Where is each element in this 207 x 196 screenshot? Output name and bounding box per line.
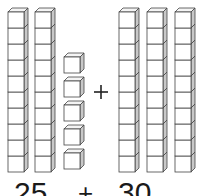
cube-front-face (119, 156, 135, 172)
cube-front-face (8, 76, 24, 92)
cube-front-face (147, 140, 163, 156)
cube-front-face (175, 140, 191, 156)
cube-front-face (35, 140, 51, 156)
cube-front-face (64, 153, 80, 169)
left-number-label: 25 (14, 178, 47, 196)
right-number-label: 30 (118, 178, 151, 196)
cube-front-face (35, 76, 51, 92)
cube-front-face (119, 124, 135, 140)
cube-front-face (35, 28, 51, 44)
tens-rod (35, 8, 55, 172)
cube-front-face (8, 92, 24, 108)
base-ten-blocks-diagram (0, 0, 207, 196)
cube-front-face (175, 60, 191, 76)
tens-rod (119, 8, 139, 172)
ones-cube (64, 53, 84, 73)
cube-front-face (35, 156, 51, 172)
cube-front-face (147, 108, 163, 124)
cube-front-face (64, 105, 80, 121)
cube-front-face (119, 76, 135, 92)
cube-front-face (64, 129, 80, 145)
cube-front-face (119, 44, 135, 60)
cube-side-face (80, 125, 84, 145)
cube-front-face (175, 12, 191, 28)
cube-front-face (8, 108, 24, 124)
cube-side-face (80, 101, 84, 121)
cube-side-face (163, 8, 167, 28)
ones-cube (64, 125, 84, 145)
ones-cubes (64, 53, 84, 169)
cube-side-face (80, 53, 84, 73)
cube-front-face (147, 76, 163, 92)
cube-front-face (8, 156, 24, 172)
cube-front-face (147, 12, 163, 28)
tens-rod (175, 8, 195, 172)
cube-front-face (8, 124, 24, 140)
cube-front-face (147, 92, 163, 108)
cube-front-face (119, 28, 135, 44)
cube-side-face (135, 8, 139, 28)
cube-front-face (64, 81, 80, 97)
cube-front-face (35, 124, 51, 140)
cube-front-face (175, 76, 191, 92)
cube-front-face (175, 156, 191, 172)
cube-front-face (119, 140, 135, 156)
cube-front-face (175, 92, 191, 108)
cube-front-face (8, 28, 24, 44)
cube-front-face (147, 60, 163, 76)
cube-front-face (147, 124, 163, 140)
cube-side-face (80, 149, 84, 169)
tens-rod (147, 8, 167, 172)
cube-front-face (175, 108, 191, 124)
ones-cube (64, 101, 84, 121)
cube-front-face (8, 12, 24, 28)
cube-front-face (175, 124, 191, 140)
cube-side-face (191, 8, 195, 28)
cube-front-face (64, 57, 80, 73)
cube-front-face (147, 44, 163, 60)
cube-front-face (35, 92, 51, 108)
cube-front-face (119, 108, 135, 124)
cube-front-face (8, 44, 24, 60)
cube-front-face (35, 44, 51, 60)
cube-front-face (147, 28, 163, 44)
cube-side-face (24, 8, 28, 28)
cube-front-face (119, 92, 135, 108)
cube-front-face (147, 156, 163, 172)
cube-front-face (119, 60, 135, 76)
cube-front-face (119, 12, 135, 28)
ones-cube (64, 149, 84, 169)
plus-sign (94, 85, 108, 99)
tens-rod (8, 8, 28, 172)
cube-front-face (175, 28, 191, 44)
cube-front-face (35, 12, 51, 28)
cube-front-face (35, 108, 51, 124)
plus-label: + (78, 178, 93, 196)
cube-front-face (8, 140, 24, 156)
cube-front-face (35, 60, 51, 76)
cube-side-face (51, 8, 55, 28)
ones-cube (64, 77, 84, 97)
cube-front-face (8, 60, 24, 76)
cube-side-face (80, 77, 84, 97)
cube-front-face (175, 44, 191, 60)
